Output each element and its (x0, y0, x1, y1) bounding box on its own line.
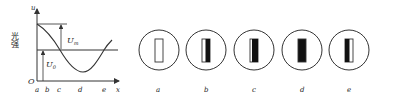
y-axis-label: u (31, 4, 36, 12)
pattern-label-d: d (300, 86, 305, 94)
slit-d-dark (298, 39, 306, 62)
pattern-label-b: b (204, 86, 209, 94)
u0-label: U0 (46, 60, 57, 70)
origin-label: O (28, 77, 35, 86)
tick-a: a (35, 86, 39, 94)
pattern-b: b (186, 30, 226, 94)
intensity-graph: u 光强 O x a b c d e Um U0 (10, 4, 121, 94)
pattern-d: d (282, 30, 322, 94)
tick-c: c (57, 86, 61, 94)
slit-c-dark (252, 39, 258, 62)
slit-a (155, 39, 163, 62)
x-axis-label: x (116, 86, 120, 94)
slit-b-dark (206, 39, 211, 62)
pattern-label-e: e (347, 86, 351, 94)
slit-e-dark (345, 39, 350, 62)
pattern-a: a (139, 30, 179, 94)
tick-b: b (45, 86, 50, 94)
um-label: Um (67, 36, 79, 46)
tick-d: d (78, 86, 83, 94)
y-axis-title: 光强 (10, 31, 19, 49)
pattern-c: c (234, 30, 274, 94)
pattern-e: e (329, 30, 369, 94)
pattern-label-c: c (252, 86, 256, 94)
tick-e: e (102, 86, 106, 94)
diagram-canvas: u 光强 O x a b c d e Um U0 a b c d (0, 0, 396, 98)
pattern-label-a: a (156, 86, 160, 94)
